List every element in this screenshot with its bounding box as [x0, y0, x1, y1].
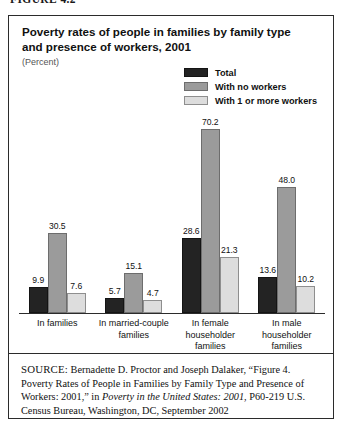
bar-wrap: 4.7 [143, 117, 162, 313]
bar-wrap: 9.9 [29, 117, 48, 313]
bar-wrap: 70.2 [201, 117, 220, 313]
bar[interactable] [143, 300, 162, 312]
bar-group: 28.670.221.3 [182, 117, 239, 313]
legend-item-total: Total [184, 66, 317, 79]
bar[interactable] [296, 286, 315, 313]
bar[interactable] [48, 233, 67, 313]
bar[interactable] [258, 277, 277, 313]
bar[interactable] [105, 298, 124, 313]
bar-group: 5.715.14.7 [105, 117, 162, 313]
x-axis-line [19, 313, 325, 315]
legend-swatch-icon [184, 82, 208, 91]
bar[interactable] [29, 287, 48, 313]
x-axis-label: In married-couplefamilies [98, 318, 170, 353]
bar-group: 9.930.57.6 [29, 117, 86, 313]
bar-group: 13.648.010.2 [258, 117, 315, 313]
bar-wrap: 10.2 [296, 117, 315, 313]
legend-label: Total [215, 68, 236, 78]
bar[interactable] [201, 129, 220, 312]
bar-value-label: 21.3 [221, 245, 238, 255]
bar[interactable] [67, 293, 86, 313]
plot-area: 9.930.57.65.715.14.728.670.221.313.648.0… [19, 116, 325, 314]
bar-wrap: 28.6 [182, 117, 201, 313]
bar-wrap: 21.3 [220, 117, 239, 313]
bar-value-label: 28.6 [183, 226, 200, 236]
bar-value-label: 70.2 [202, 117, 219, 127]
bar-value-label: 48.0 [278, 175, 295, 185]
bar[interactable] [182, 238, 201, 313]
source-publication-title: Poverty in the United States: 2001 [102, 391, 244, 402]
bar-value-label: 30.5 [49, 221, 66, 231]
bar-wrap: 13.6 [258, 117, 277, 313]
legend-label: With 1 or more workers [215, 96, 317, 106]
x-axis-label: In malehouseholderfamilies [251, 318, 323, 353]
chart-subtitle: (Percent) [22, 57, 59, 67]
bar-wrap: 30.5 [48, 117, 67, 313]
bar-wrap: 7.6 [67, 117, 86, 313]
bar-value-label: 10.2 [297, 274, 314, 284]
chart-title: Poverty rates of people in families by f… [22, 25, 302, 54]
bar-value-label: 13.6 [259, 265, 276, 275]
source-label: SOURCE: [21, 363, 68, 375]
legend-item-with-one-or-more-workers: With 1 or more workers [184, 94, 317, 107]
chart-panel: Poverty rates of people in families by f… [9, 16, 333, 354]
bar[interactable] [220, 257, 239, 313]
bar-wrap: 15.1 [124, 117, 143, 313]
bar-value-label: 9.9 [32, 275, 44, 285]
legend-label: With no workers [215, 82, 286, 92]
chart-legend: Total With no workers With 1 or more wor… [184, 66, 317, 108]
bar[interactable] [124, 273, 143, 312]
bar-wrap: 48.0 [277, 117, 296, 313]
x-axis-label: In families [21, 318, 93, 353]
figure-box: Poverty rates of people in families by f… [8, 15, 334, 419]
legend-item-with-no-workers: With no workers [184, 80, 317, 93]
x-axis-label: In femalehouseholderfamilies [174, 318, 246, 353]
figure-caption: FIGURE 4.2 [10, 0, 76, 5]
legend-swatch-icon [184, 68, 208, 77]
bar-value-label: 4.7 [147, 288, 159, 298]
bar[interactable] [277, 187, 296, 312]
bar-value-label: 7.6 [70, 281, 82, 291]
legend-swatch-icon [184, 96, 208, 105]
bar-value-label: 15.1 [125, 261, 142, 271]
x-axis-category-labels: In familiesIn married-couplefamiliesIn f… [19, 318, 325, 353]
bar-value-label: 5.7 [109, 286, 121, 296]
bar-wrap: 5.7 [105, 117, 124, 313]
bar-groups: 9.930.57.65.715.14.728.670.221.313.648.0… [19, 117, 325, 313]
source-note: SOURCE: Bernadette D. Proctor and Joseph… [9, 354, 333, 417]
